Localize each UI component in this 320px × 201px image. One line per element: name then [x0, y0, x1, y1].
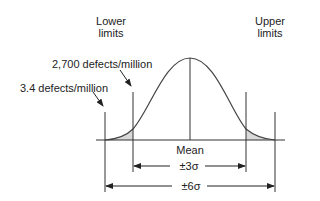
upper-limits-line2: limits: [252, 27, 288, 39]
lower-limits-label: Lower limits: [93, 15, 129, 39]
defects-3.4-label: 3.4 defects/million: [20, 82, 108, 94]
arrow-3.4: [93, 92, 103, 106]
right-tail-fill: [246, 129, 275, 140]
mean-label: Mean: [170, 144, 210, 156]
six-sigma-label: ±6σ: [174, 180, 208, 192]
arrow-2700: [120, 70, 131, 86]
upper-limits-label: Upper limits: [252, 15, 288, 39]
lower-limits-line1: Lower: [93, 15, 129, 27]
left-tail-fill: [105, 129, 133, 140]
defects-2700-label: 2,700 defects/million: [52, 58, 152, 70]
lower-limits-line2: limits: [93, 27, 129, 39]
upper-limits-line1: Upper: [252, 15, 288, 27]
three-sigma-label: ±3σ: [172, 160, 206, 172]
